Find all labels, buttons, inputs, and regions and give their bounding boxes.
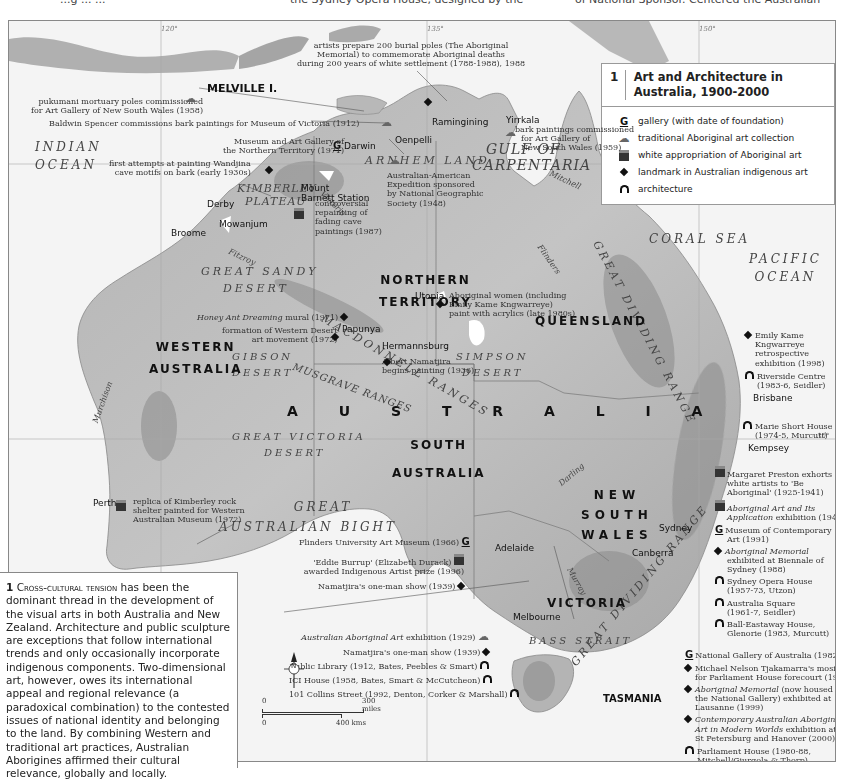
annotation-namatjira-show-adelaide: Namatjira's one-man show (1939) [299,582,464,591]
state-victoria: VICTORIA [547,597,627,611]
architecture-arch-icon [510,689,519,697]
annotation-expedition: Australian-AmericanExpedition sponsoredb… [387,171,484,208]
landmark-diamond-icon [714,546,722,554]
landmark-diamond-icon [437,293,443,311]
region-great-victoria-desert: GREAT VICTORIADESERT [232,431,366,458]
place-ramingining: Ramingining [432,117,488,127]
annotation-national-gallery: GNational Gallery of Australia (1982) [685,649,836,661]
brisbane-annotations: Emily KameKngwarreyeretrospectiveexhibit… [745,331,826,390]
place-kempsey: Kempsey [748,443,789,453]
annotation-marie-short-house: Marie Short House(1974-5, Murcutt) [743,421,832,440]
compass-icon [282,652,306,688]
annotation-honey-ant: Honey Ant Dreaming mural (1971) [197,313,347,322]
traditional-art-icon: ☁ [381,117,392,130]
annotation-museum-contemporary-art: GMuseum of ContemporaryArt (1991) [715,524,836,545]
landmark-diamond-icon [744,331,752,339]
traditional-art-icon: ☁ [389,155,400,168]
architecture-arch-icon [480,661,489,669]
annotation-parliament-house: Parliament House (1980-88,Mitchell/Giurg… [685,746,836,762]
state-new-south-wales: NEWSOUTHWALES [581,489,653,542]
annotation-wandjina: first attempts at painting Wandjinacave … [109,159,251,177]
place-brisbane: Brisbane [753,393,793,403]
white-appropriation-icon [454,554,464,565]
state-western-australia: WESTERNAUSTRALIA [149,341,242,377]
annotation-modern-worlds: Contemporary Australian AboriginalArt in… [685,715,836,743]
place-mowanjum: Mowanjum [219,219,268,229]
region-great-sandy-desert: GREAT SANDYDESERT [201,266,318,295]
scale-bar: 0 300 miles 0 400 kms [262,697,392,729]
landmark-diamond-icon [684,715,692,723]
annotation-aboriginal-art-application: Aboriginal Art and ItsApplication exhibi… [715,500,836,522]
region-arnhem-land: ARNHEM LAND [365,155,490,168]
place-oenpelli: Oenpelli [395,135,432,145]
place-hermannsburg: Hermannsburg [382,341,449,351]
landmark-diamond-icon [266,159,272,177]
traditional-art-icon: ☁ [185,93,196,106]
annotation-pukumani: pukumani mortuary poles commissionedfor … [31,97,203,115]
annotation-repainting: controversialrepainting offading cavepai… [315,199,382,236]
architecture-arch-icon [620,185,629,193]
caption-body: has been the dominant thread in the deve… [6,581,230,779]
place-canberra: Canberra [632,548,674,558]
canberra-annotations: GNational Gallery of Australia (1982) Mi… [685,649,836,762]
landmark-diamond-icon [332,326,338,344]
place-melbourne: Melbourne [513,612,561,622]
annotation-baldwin-spencer: Baldwin Spencer commissions bark paintin… [49,119,359,128]
architecture-arch-icon [743,421,752,429]
annotation-ball-eastaway-house: Ball-Eastaway House,Glenorie (1983, Murc… [715,619,836,638]
annotation-flinders-museum: Flinders University Art Museum (1966) G [299,536,464,548]
caption-lead: Cross-cultural tension [17,581,118,593]
ocean-indian: INDIANOCEAN [35,141,102,173]
architecture-arch-icon [745,371,754,379]
architecture-arch-icon [483,675,492,683]
legend-item-gallery: Ggallery (with date of foundation) [610,113,826,130]
white-appropriation-icon [715,500,725,511]
annotation-sydney-opera-house: Sydney Opera House(1957-73, Utzon) [715,576,836,595]
white-appropriation-icon [715,466,725,477]
place-yirrkala: Yirrkala [506,115,540,125]
sydney-annotations: Margaret Preston exhortswhite artists to… [715,466,836,638]
ocean-pacific: PACIFICOCEAN [749,253,822,285]
landmark-diamond-icon [482,647,490,655]
place-derby: Derby [207,199,234,209]
landmark-diamond-icon [684,685,692,693]
architecture-arch-icon [715,576,724,584]
melbourne-annotations: Australian Aboriginal Art exhibition (19… [289,631,489,699]
figure-caption: 1 Cross-cultural tension has been the do… [0,572,238,768]
annotation-namatjira-show-melbourne: Namatjira's one-man show (1939) [289,648,489,657]
landmark-diamond-icon [384,351,390,369]
annotation-aboriginal-art-exhibition: Australian Aboriginal Art exhibition (19… [289,631,489,644]
legend-item-appropriation: white appropriation of Aboriginal art [610,147,826,164]
gallery-icon: G [715,524,723,535]
legend-item-traditional: ☁traditional Aboriginal art collection [610,130,826,147]
architecture-arch-icon [685,746,694,754]
annotation-eddie-burrup: 'Eddie Burrup' (Elizabeth Durack) awarde… [299,554,464,576]
legend-number: 1 [610,70,626,100]
annotation-tjakamarra-mosaic: Michael Nelson Tjakamarra's mosiacfor Pa… [685,664,836,682]
caption-number: 1 [6,581,13,593]
map-legend: 1 Art and Architecture in Australia, 190… [601,63,835,205]
sea-coral: CORAL SEA [649,233,750,247]
landmark-diamond-icon [425,91,431,109]
lon-120: 120° [161,25,178,33]
architecture-arch-icon [715,598,724,606]
annotation-burial-poles: artists prepare 200 burial poles (The Ab… [297,41,525,69]
annotation-margaret-preston: Margaret Preston exhortswhite artists to… [715,466,836,498]
legend-item-architecture: architecture [610,181,826,198]
gallery-icon: G [685,649,693,660]
place-perth: Perth [93,498,117,508]
traditional-art-icon: ☁ [505,127,516,140]
white-appropriation-icon [116,497,126,515]
fragment-right: of National Sponsor. Centered the Austra… [575,0,820,6]
annotation-western-desert: formation of Western Desertart movement … [222,326,337,344]
annotation-memorial-lausanne: Aboriginal Memorial (now housed atthe Na… [685,685,836,713]
traditional-art-icon: ☁ [478,630,489,643]
gallery-icon: G [462,536,470,547]
north-arrow: N [282,652,306,692]
place-adelaide: Adelaide [495,543,534,553]
annotation-perth-replica: replica of Kimberley rockshelter painted… [133,497,245,525]
place-sydney: Sydney [659,523,692,533]
landmark-diamond-icon [620,168,628,176]
annotation-darwin-museum: Museum and Art Gallery ofthe Northern Te… [223,137,344,155]
state-tasmania: TASMANIA [603,693,662,705]
